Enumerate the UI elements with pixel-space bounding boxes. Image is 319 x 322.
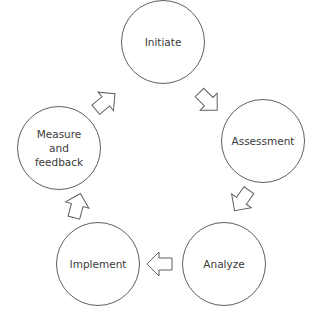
node-label-measure: Measure and feedback bbox=[35, 127, 83, 169]
arrow-assessment-to-analyze bbox=[225, 183, 259, 217]
node-label-analyze: Analyze bbox=[203, 257, 244, 271]
arrow-analyze-to-implement bbox=[147, 252, 172, 276]
node-assessment: Assessment bbox=[221, 99, 305, 183]
node-measure-and-feedback: Measure and feedback bbox=[17, 106, 101, 190]
arrow-initiate-to-assessment bbox=[191, 84, 226, 119]
node-label-implement: Implement bbox=[70, 257, 127, 271]
node-label-initiate: Initiate bbox=[145, 35, 182, 49]
arrow-measure-to-initiate bbox=[88, 84, 123, 118]
node-initiate: Initiate bbox=[121, 0, 205, 84]
arrow-implement-to-measure bbox=[62, 190, 92, 220]
node-analyze: Analyze bbox=[182, 222, 266, 306]
node-implement: Implement bbox=[56, 222, 140, 306]
node-label-assessment: Assessment bbox=[232, 134, 295, 148]
